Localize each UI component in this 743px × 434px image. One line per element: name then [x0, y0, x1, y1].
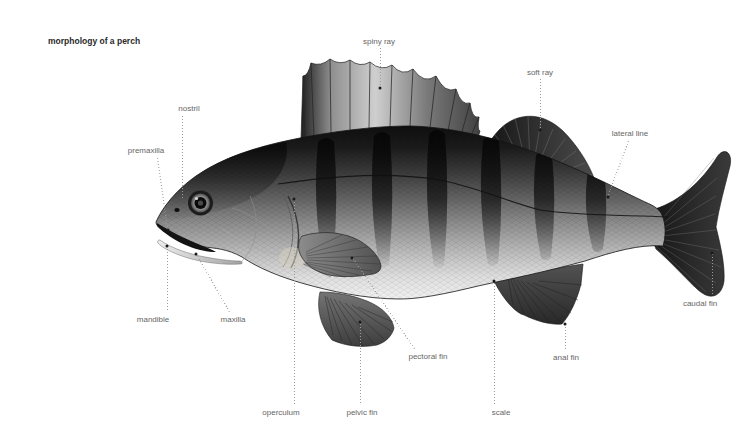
label-maxilla: maxilla [221, 315, 246, 324]
dot-scale [493, 280, 496, 283]
dot-mandible [166, 245, 169, 248]
dot-spiny-ray [379, 87, 382, 90]
leader-mandible [167, 249, 168, 312]
leader-spiny-ray [380, 48, 381, 87]
leader-operculum [294, 202, 295, 404]
dot-lateral-line [607, 196, 610, 199]
label-pectoral-fin: pectoral fin [408, 352, 447, 361]
label-lateral-line: lateral line [612, 129, 648, 138]
perch-illustration [0, 0, 743, 434]
dot-operculum [293, 198, 296, 201]
label-nostril: nostril [178, 104, 199, 113]
figure-title: morphology of a perch [48, 36, 140, 46]
dot-premaxilla [167, 229, 170, 232]
leader-anal-fin [565, 327, 566, 350]
dot-maxilla [195, 253, 198, 256]
fish-body [150, 110, 680, 310]
leader-soft-ray [540, 79, 541, 129]
dot-caudal-fin [711, 252, 714, 255]
label-mandible: mandible [137, 315, 169, 324]
figure-canvas: morphology of a perch spiny ray soft ray… [0, 0, 743, 434]
leader-caudal-fin [712, 254, 713, 296]
dot-soft-ray [539, 129, 542, 132]
label-operculum: operculum [262, 408, 299, 417]
label-anal-fin: anal fin [553, 353, 579, 362]
scale-texture [150, 110, 680, 310]
label-premaxilla: premaxilla [128, 146, 164, 155]
dot-anal-fin [564, 323, 567, 326]
leader-pelvic-fin [360, 324, 361, 404]
label-spiny-ray: spiny ray [363, 37, 395, 46]
dot-pelvic-fin [359, 321, 362, 324]
label-caudal-fin: caudal fin [683, 299, 717, 308]
eye [188, 191, 213, 216]
leader-scale [494, 283, 495, 404]
label-scale: scale [492, 408, 511, 417]
dot-pectoral-fin [351, 257, 354, 260]
label-soft-ray: soft ray [527, 68, 553, 77]
nostril-mark [174, 208, 179, 212]
label-pelvic-fin: pelvic fin [346, 408, 377, 417]
leader-nostril [182, 116, 183, 198]
